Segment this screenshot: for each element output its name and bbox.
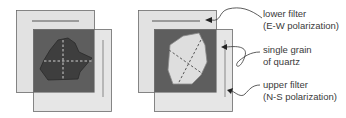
left-panel [17, 11, 112, 112]
lower-filter-leader [211, 8, 262, 20]
upper-filter-label: upper filter (N-S polarization) [263, 79, 337, 103]
lower-filter-label: lower filter (E-W polarization) [263, 8, 339, 32]
quartz-grain-label: single grain of quartz [263, 44, 312, 68]
right-panel [139, 8, 263, 112]
upper-filter-leader [232, 85, 260, 96]
